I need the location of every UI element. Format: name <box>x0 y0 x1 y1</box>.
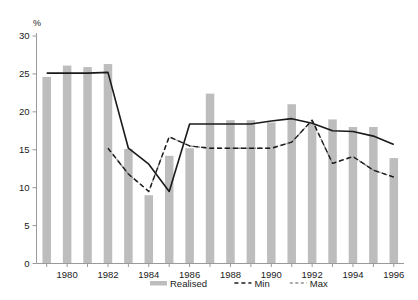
bar-1995 <box>369 127 378 264</box>
legend-swatch-realised <box>150 281 167 286</box>
line-series-realised <box>47 72 394 191</box>
y-tick-label-20: 20 <box>19 106 30 117</box>
bar-1996 <box>390 158 399 263</box>
y-tick-label-10: 10 <box>19 182 30 193</box>
x-tick-label-1982: 1982 <box>97 269 118 280</box>
y-tick-label-5: 5 <box>24 220 29 231</box>
y-tick-label-0: 0 <box>24 258 29 269</box>
bar-1989 <box>247 120 256 263</box>
bar-1994 <box>349 127 358 264</box>
bar-1983 <box>124 149 133 264</box>
bar-1993 <box>328 119 337 263</box>
bar-1990 <box>267 122 276 263</box>
bar-1981 <box>83 67 92 263</box>
bar-1979 <box>42 77 51 264</box>
bar-1987 <box>206 94 215 264</box>
y-tick-label-15: 15 <box>19 144 30 155</box>
legend-label-realised: Realised <box>170 278 207 289</box>
bar-1988 <box>226 120 235 263</box>
x-tick-label-1980: 1980 <box>57 269 78 280</box>
bar-1991 <box>287 104 296 263</box>
bar-1984 <box>145 195 154 263</box>
legend-label-max: Max <box>310 278 328 289</box>
x-tick-label-1996: 1996 <box>383 269 404 280</box>
bar-1980 <box>63 66 72 264</box>
x-tick-label-1988: 1988 <box>220 269 241 280</box>
x-tick-label-1984: 1984 <box>138 269 159 280</box>
x-tick-label-1994: 1994 <box>342 269 363 280</box>
y-axis-ticks: 051015202530 <box>19 30 37 269</box>
bar-1985 <box>165 156 174 264</box>
y-tick-label-25: 25 <box>19 68 30 79</box>
bar-1986 <box>185 148 194 263</box>
y-tick-label-30: 30 <box>19 30 30 41</box>
y-axis-unit-label: % <box>33 18 41 28</box>
x-axis-ticks: 198019821984198619881990199219941996 <box>47 264 405 280</box>
chart-plot-area: 051015202530 198019821984198619881990199… <box>0 0 418 300</box>
legend-label-min: Min <box>254 278 269 289</box>
bar-1992 <box>308 124 317 264</box>
bar-1982 <box>104 64 113 263</box>
bar-series-realised <box>42 64 398 263</box>
chart-container: 051015202530 198019821984198619881990199… <box>0 0 418 300</box>
